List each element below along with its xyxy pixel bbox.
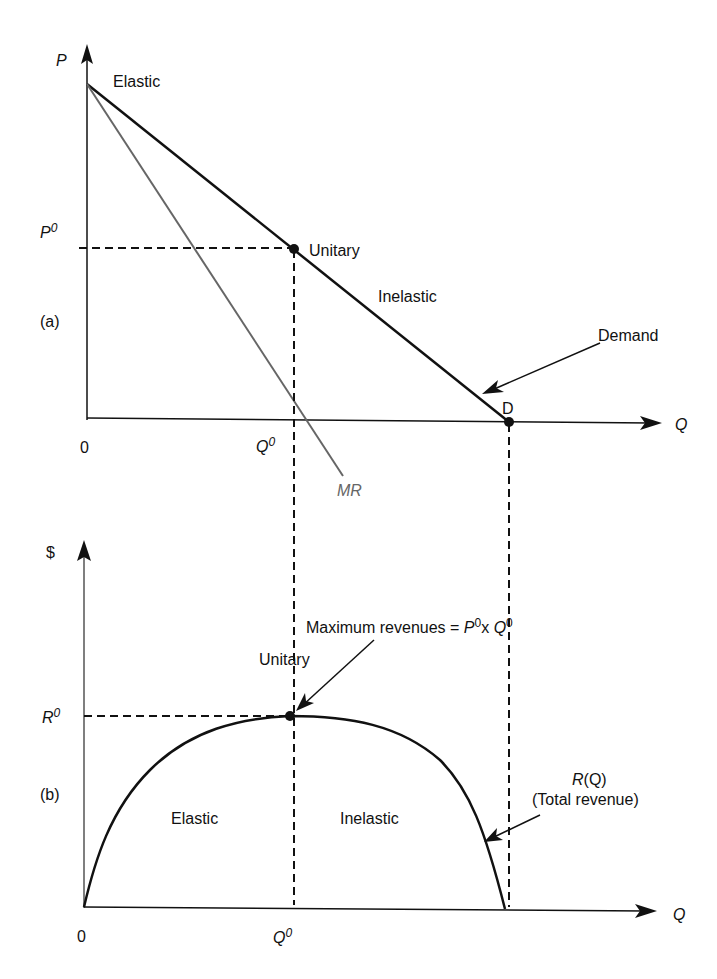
panel-b-label: (b): [40, 786, 60, 803]
r0-label: R0: [42, 706, 61, 726]
q0-label-a: Q0: [256, 435, 275, 455]
q0-label-b: Q0: [273, 926, 292, 946]
elastic-label-b: Elastic: [171, 810, 218, 827]
max-revenue-pointer: [303, 640, 374, 705]
inelastic-label-b: Inelastic: [340, 810, 399, 827]
d-point-label: D: [502, 400, 514, 417]
d-point: [504, 417, 514, 427]
max-revenue-point: [285, 711, 295, 721]
elasticity-revenue-figure: P Elastic P0 Unitary Inelastic (a) Deman…: [0, 0, 717, 979]
elastic-label-a: Elastic: [113, 73, 160, 90]
max-revenue-label: Maximum revenues = P0x Q0: [306, 616, 513, 636]
inelastic-label-a: Inelastic: [378, 288, 437, 305]
q-axis-b: [84, 907, 645, 911]
q-axis-label-a: Q: [675, 416, 687, 433]
dollar-axis-label: $: [46, 544, 55, 561]
p0-label: P0: [40, 221, 58, 241]
total-revenue-label: (Total revenue): [532, 791, 639, 808]
unitary-label-a: Unitary: [309, 242, 360, 259]
p-axis-label: P: [56, 52, 67, 69]
origin-label-a: 0: [80, 439, 89, 456]
q-axis-label-b: Q: [673, 906, 685, 923]
unitary-label-b: Unitary: [259, 651, 310, 668]
q-axis: [87, 418, 650, 423]
panel-b: $ Maximum revenues = P0x Q0 Unitary R0 R…: [40, 540, 685, 946]
revenue-pointer: [492, 815, 540, 838]
mr-label: MR: [337, 482, 362, 499]
rq-label: R(Q): [572, 771, 607, 788]
demand-curve: [87, 84, 509, 422]
revenue-arrow-icon: [484, 828, 503, 842]
origin-label-b: 0: [77, 928, 86, 945]
demand-pointer: [492, 343, 600, 390]
mr-curve: [87, 84, 343, 476]
max-revenue-arrow-icon: [296, 693, 314, 711]
unitary-point: [289, 244, 299, 254]
panel-a-label: (a): [40, 313, 60, 330]
demand-label: Demand: [598, 327, 658, 344]
